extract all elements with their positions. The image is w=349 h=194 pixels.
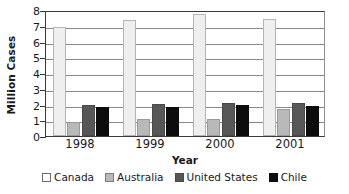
y-axis-tick-label: 2 — [33, 100, 40, 111]
y-axis-tick-label: 0 — [33, 132, 40, 143]
y-axis-tick-label: 6 — [33, 37, 40, 48]
bar — [96, 107, 109, 136]
chart-legend: CanadaAustraliaUnited StatesChile — [0, 172, 349, 183]
legend-label: Australia — [117, 172, 163, 183]
y-axis-tick-label: 3 — [33, 84, 40, 95]
y-axis-tick-label: 5 — [33, 53, 40, 64]
x-axis-tick-label: 1999 — [135, 139, 164, 151]
legend-swatch-icon — [105, 173, 114, 182]
bar-group — [263, 12, 320, 136]
bar — [123, 20, 136, 136]
bar — [263, 19, 276, 136]
bar-group — [53, 12, 110, 136]
bar — [82, 105, 95, 137]
plot-area — [45, 11, 325, 137]
legend-swatch-icon — [269, 173, 278, 182]
y-axis-tick-label: 8 — [33, 6, 40, 17]
legend-item[interactable]: Australia — [105, 172, 163, 183]
bar — [166, 107, 179, 136]
x-axis-title: Year — [45, 154, 325, 166]
bar — [292, 103, 305, 136]
bar — [207, 119, 220, 136]
y-axis-tick-labels: 012345678 — [22, 11, 42, 137]
bar — [193, 14, 206, 136]
y-axis-tick-mark — [40, 137, 46, 138]
x-axis-tick-label: 1998 — [65, 139, 94, 151]
legend-label: Canada — [54, 172, 94, 183]
x-axis-tick-label: 2001 — [275, 139, 304, 151]
y-axis-title: Million Cases — [0, 0, 22, 150]
bars-layer — [46, 12, 324, 136]
y-axis-title-label: Million Cases — [5, 36, 17, 115]
bar — [152, 104, 165, 136]
bar-chart-figure: Million Cases 012345678 1998199920002001… — [0, 0, 349, 194]
bar-group — [193, 12, 250, 136]
x-axis-tick-label: 2000 — [205, 139, 234, 151]
legend-item[interactable]: Canada — [42, 172, 94, 183]
bar — [137, 119, 150, 136]
bar — [306, 106, 319, 136]
y-axis-tick-label: 7 — [33, 21, 40, 32]
legend-label: United States — [187, 172, 258, 183]
bar — [277, 109, 290, 136]
y-axis-tick-label: 4 — [33, 69, 40, 80]
legend-item[interactable]: Chile — [269, 172, 307, 183]
bar — [67, 122, 80, 136]
x-axis-tick-labels: 1998199920002001 — [45, 139, 325, 155]
bar — [236, 105, 249, 136]
legend-swatch-icon — [42, 173, 51, 182]
legend-label: Chile — [281, 172, 307, 183]
bar — [53, 27, 66, 136]
legend-item[interactable]: United States — [175, 172, 258, 183]
y-axis-tick-label: 1 — [33, 116, 40, 127]
bar — [222, 103, 235, 136]
bar-group — [123, 12, 180, 136]
legend-swatch-icon — [175, 173, 184, 182]
